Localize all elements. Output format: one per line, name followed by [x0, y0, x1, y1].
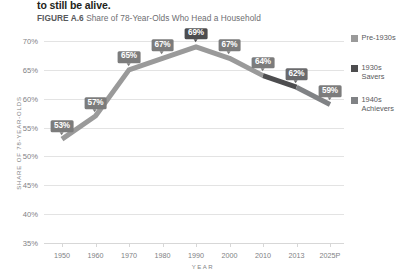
legend-label: Pre-1930s — [362, 34, 396, 43]
data-label-2025P: 59% — [319, 86, 342, 98]
y-axis-tick-label: 35% — [0, 239, 38, 248]
legend-swatch-icon — [351, 65, 358, 72]
running-head-text: to still be alive. — [37, 0, 110, 11]
data-label-2013: 62% — [285, 68, 308, 80]
data-label-2010: 64% — [252, 57, 275, 69]
line-segment — [62, 47, 263, 139]
x-axis-tick-label: 1990 — [188, 251, 204, 260]
legend-pre-1930s[interactable]: Pre-1930s — [351, 34, 396, 43]
figure-caption: FIGURE A.6 Share of 78-Year-Olds Who Hea… — [37, 13, 261, 23]
legend-1940s-achievers[interactable]: 1940sAchievers — [351, 96, 394, 113]
legend-swatch-icon — [351, 97, 358, 104]
x-axis-tick-label: 1960 — [88, 251, 104, 260]
x-axis-tick-label: 2010 — [255, 251, 271, 260]
x-axis-tick-label: 1970 — [121, 251, 137, 260]
x-axis-tick-mark — [297, 243, 298, 247]
y-axis-tick-label: 40% — [0, 210, 38, 219]
x-axis-tick-mark — [96, 243, 97, 247]
x-axis-tick-mark — [62, 243, 63, 247]
plot-area: 35%40%45%50%55%60%65%70% 195019601970198… — [44, 41, 344, 243]
data-label-1960: 57% — [84, 97, 107, 109]
data-label-1970: 65% — [118, 51, 141, 63]
x-axis-tick-mark — [330, 243, 331, 247]
gridline — [44, 243, 344, 244]
y-axis-tick-label: 45% — [0, 181, 38, 190]
y-axis-tick-label: 70% — [0, 37, 38, 46]
legend-1930s-savers[interactable]: 1930sSavers — [351, 64, 385, 81]
y-axis-tick-label: 65% — [0, 65, 38, 74]
x-axis-tick-mark — [196, 243, 197, 247]
legend-swatch-icon — [351, 35, 358, 42]
data-label-2000: 67% — [218, 40, 241, 52]
y-axis-tick-label: 55% — [0, 123, 38, 132]
y-axis-tick-label: 50% — [0, 152, 38, 161]
x-axis-tick-mark — [163, 243, 164, 247]
legend-label: 1930sSavers — [362, 64, 385, 81]
figure-container: to still be alive. FIGURE A.6 Share of 7… — [0, 0, 406, 276]
data-label-1990: 69% — [185, 28, 208, 40]
x-axis-tick-mark — [263, 243, 264, 247]
y-axis-title: SHARE OF 78-YEAR-OLDS — [16, 63, 22, 223]
data-label-1950: 53% — [51, 120, 74, 132]
y-axis-tick-label: 60% — [0, 94, 38, 103]
x-axis-tick-label: 2013 — [289, 251, 305, 260]
x-axis-tick-label: 1950 — [54, 251, 70, 260]
x-axis-tick-mark — [129, 243, 130, 247]
figure-number: FIGURE A.6 — [37, 13, 84, 23]
x-axis-tick-label: 2000 — [222, 251, 238, 260]
figure-title: Share of 78-Year-Olds Who Head a Househo… — [86, 13, 261, 23]
data-label-1980: 67% — [151, 40, 174, 52]
x-axis-tick-label: 1980 — [155, 251, 171, 260]
x-axis-tick-label: 2025P — [320, 251, 341, 260]
legend-label: 1940sAchievers — [362, 96, 394, 113]
x-axis-title: YEAR — [0, 264, 406, 270]
x-axis-tick-mark — [230, 243, 231, 247]
